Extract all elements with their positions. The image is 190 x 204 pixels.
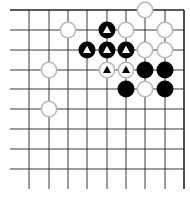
white-stone	[157, 42, 172, 57]
black-stone-marked	[118, 42, 135, 59]
white-stone	[137, 42, 152, 57]
white-stone	[41, 62, 56, 77]
white-stone-marked	[118, 62, 133, 77]
black-stone-marked	[99, 22, 116, 39]
white-stone	[137, 81, 152, 96]
black-stone	[118, 81, 135, 98]
white-stone	[41, 101, 56, 116]
white-stone	[157, 22, 172, 37]
white-stone	[60, 22, 75, 37]
go-board	[0, 0, 190, 204]
white-stone	[118, 22, 133, 37]
white-stone-marked	[99, 62, 114, 77]
black-stone	[157, 62, 174, 79]
black-stone	[157, 81, 174, 98]
black-stone-marked	[79, 42, 96, 59]
grid-lines	[10, 10, 184, 189]
black-stone-marked	[99, 42, 116, 59]
white-stone	[137, 2, 152, 17]
black-stone	[137, 62, 154, 79]
